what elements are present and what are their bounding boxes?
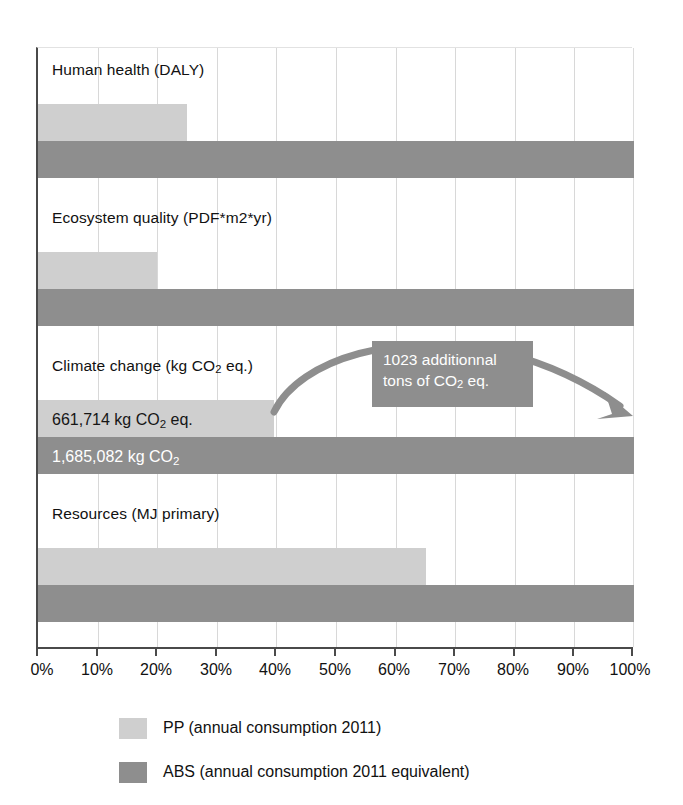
bar-group-climate-change: Climate change (kg CO2 eq.) 661,714 kg C… (38, 344, 632, 492)
x-tick-label-80: 80% (497, 661, 529, 679)
bar-value-pp-head: 661,714 kg CO (52, 411, 160, 428)
category-label-ecosystem-quality: Ecosystem quality (PDF*m2*yr) (52, 209, 272, 227)
x-tick-30 (215, 647, 217, 656)
gridline-100 (633, 48, 634, 647)
x-tick-100 (631, 647, 633, 656)
bar-group-resources: Resources (MJ primary) (38, 492, 632, 640)
bar-pp-human-health[interactable] (38, 104, 187, 141)
category-label-resources: Resources (MJ primary) (52, 505, 220, 523)
x-tick-10 (96, 647, 98, 656)
x-tick-90 (572, 647, 574, 656)
x-tick-60 (394, 647, 396, 656)
x-tick-label-30: 30% (200, 661, 232, 679)
legend-swatch-abs-icon (119, 762, 147, 783)
x-tick-20 (155, 647, 157, 656)
bar-value-pp-climate-change: 661,714 kg CO2 eq. (52, 412, 193, 430)
bar-chart: Human health (DALY) Ecosystem quality (P… (0, 0, 683, 805)
bar-pp-ecosystem-quality[interactable] (38, 252, 157, 289)
bar-abs-resources[interactable] (38, 585, 634, 622)
plot-area: Human health (DALY) Ecosystem quality (P… (36, 47, 632, 647)
category-label-climate-change: Climate change (kg CO2 eq.) (52, 357, 253, 375)
x-tick-label-20: 20% (140, 661, 172, 679)
x-tick-label-60: 60% (378, 661, 410, 679)
legend-item-pp[interactable]: PP (annual consumption 2011) (119, 715, 381, 741)
x-tick-80 (513, 647, 515, 656)
x-tick-label-40: 40% (259, 661, 291, 679)
subscript-two: 2 (173, 455, 179, 467)
legend-label-abs: ABS (annual consumption 2011 equivalent) (163, 763, 470, 781)
bar-value-abs-climate-change: 1,685,082 kg CO2 (52, 449, 179, 467)
legend-label-pp: PP (annual consumption 2011) (163, 719, 381, 737)
category-label-climate-change-tail: eq.) (222, 357, 254, 374)
category-label-human-health: Human health (DALY) (52, 61, 204, 79)
bar-group-ecosystem-quality: Ecosystem quality (PDF*m2*yr) (38, 196, 632, 344)
x-tick-70 (453, 647, 455, 656)
bar-value-abs-head: 1,685,082 kg CO (52, 448, 173, 465)
legend-swatch-pp-icon (119, 718, 147, 739)
x-tick-40 (274, 647, 276, 656)
x-tick-50 (334, 647, 336, 656)
bar-pp-resources[interactable] (38, 548, 426, 585)
bar-group-human-health: Human health (DALY) (38, 48, 632, 196)
legend-item-abs[interactable]: ABS (annual consumption 2011 equivalent) (119, 759, 470, 785)
x-tick-label-90: 90% (557, 661, 589, 679)
bar-abs-human-health[interactable] (38, 141, 634, 178)
x-tick-label-100: 100% (610, 661, 651, 679)
x-tick-label-50: 50% (319, 661, 351, 679)
x-tick-0 (36, 647, 38, 656)
bar-abs-ecosystem-quality[interactable] (38, 289, 634, 326)
category-label-climate-change-head: Climate change (kg CO (52, 357, 215, 374)
x-tick-label-0: 0% (30, 661, 53, 679)
x-tick-label-70: 70% (438, 661, 470, 679)
x-tick-label-10: 10% (81, 661, 113, 679)
bar-value-pp-tail: eq. (166, 411, 193, 428)
